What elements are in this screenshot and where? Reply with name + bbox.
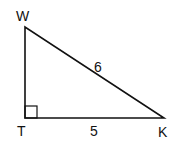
- triangle-diagram: W T K 6 5: [0, 0, 185, 147]
- right-angle-marker: [25, 106, 37, 118]
- vertex-label-k: K: [158, 124, 168, 140]
- side-label-wk: 6: [94, 59, 102, 75]
- side-label-tk: 5: [90, 123, 98, 139]
- vertex-label-t: T: [17, 123, 26, 139]
- vertex-label-w: W: [16, 8, 30, 24]
